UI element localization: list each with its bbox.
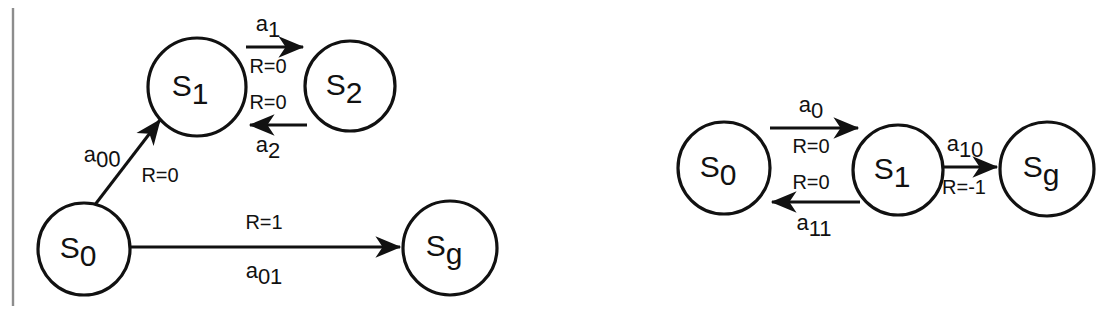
edge-reward-s2-s1: R=0 xyxy=(249,91,286,113)
edge-reward-s0-s1: R=0 xyxy=(141,164,178,186)
edge-reward-r-s1-sg: R=-1 xyxy=(942,176,986,198)
edge-action-a00: a00 xyxy=(83,140,121,173)
edge-reward-s1-s2: R=0 xyxy=(249,55,286,77)
edge-action-r-a11: a11 xyxy=(796,210,831,241)
edge-action-a1: a1 xyxy=(256,11,281,42)
right-state-diagram: S0 S1 Sg a0 a11 a10 R=0 R=0 R=-1 xyxy=(678,92,1094,241)
left-state-diagram: S1 S2 S0 Sg a1 a2 a00 a01 xyxy=(38,11,497,295)
edge-action-r-a10: a10 xyxy=(947,131,984,162)
edge-reward-s0-sg: R=1 xyxy=(245,211,282,233)
edge-reward-r-s0-s1: R=0 xyxy=(792,135,829,157)
edge-reward-r-s1-s0: R=0 xyxy=(792,171,829,193)
edge-action-a01: a01 xyxy=(246,258,283,289)
edge-action-r-a0: a0 xyxy=(799,92,824,123)
edge-action-a2: a2 xyxy=(256,132,281,163)
diagram-canvas: S1 S2 S0 Sg a1 a2 a00 a01 xyxy=(0,0,1116,315)
